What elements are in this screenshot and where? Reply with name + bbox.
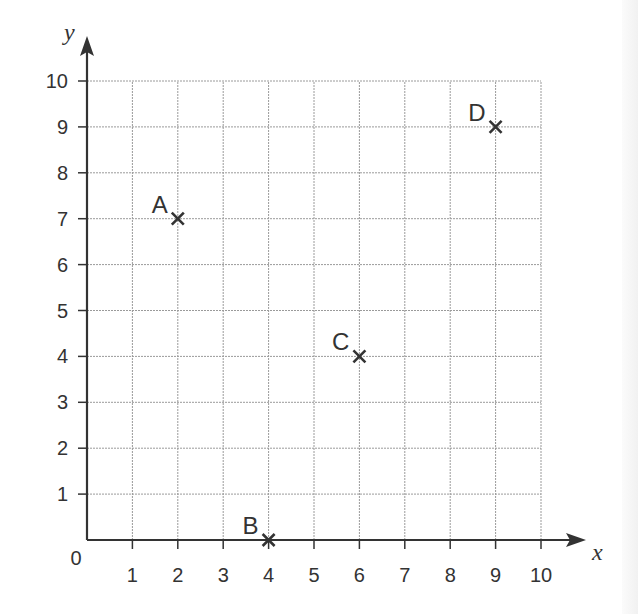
y-tick-label: 5	[57, 300, 68, 322]
point-label: D	[468, 99, 485, 126]
y-tick-label: 8	[57, 162, 68, 184]
x-tick-label: 5	[308, 564, 319, 586]
x-tick-label: 2	[172, 564, 183, 586]
point-label: A	[152, 191, 168, 218]
x-tick-label: 9	[490, 564, 501, 586]
x-tick-label: 1	[127, 564, 138, 586]
x-tick-label: 4	[263, 564, 274, 586]
point-label: C	[332, 328, 349, 355]
y-tick-label: 6	[57, 254, 68, 276]
x-tick-label: 3	[218, 564, 229, 586]
point-label: B	[243, 512, 259, 539]
y-tick-label: 3	[57, 391, 68, 413]
y-tick-label: 9	[57, 116, 68, 138]
origin-label: 0	[70, 547, 81, 569]
y-axis-label: y	[62, 19, 75, 45]
x-tick-label: 7	[399, 564, 410, 586]
y-tick-label: 10	[46, 70, 68, 92]
x-tick-label: 8	[445, 564, 456, 586]
y-tick-label: 4	[57, 345, 68, 367]
x-tick-label: 6	[354, 564, 365, 586]
x-axis-label: x	[591, 539, 603, 565]
x-tick-label: 10	[530, 564, 552, 586]
y-tick-label: 2	[57, 437, 68, 459]
coordinate-grid-chart: 12345678910123456789100xyABCD	[0, 0, 638, 614]
y-tick-label: 7	[57, 208, 68, 230]
y-tick-label: 1	[57, 483, 68, 505]
